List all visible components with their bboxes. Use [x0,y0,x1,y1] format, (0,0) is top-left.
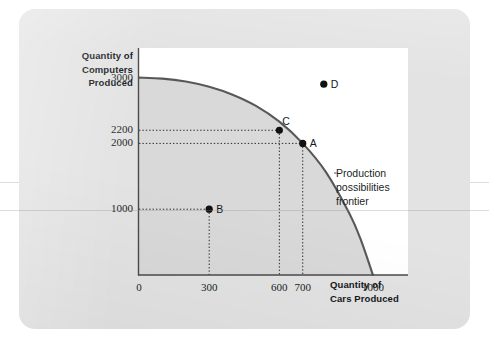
data-point-label-c: C [282,115,290,127]
x-axis-title-line-2: Cars Produced [330,292,442,306]
data-point-label-d: D [331,78,339,90]
figure-card: Quantity of Computers Produced Quantity … [19,9,470,329]
data-point-label-a: A [310,137,317,149]
y-tick-label: 1000 [89,202,133,214]
y-axis-title: Quantity of Computers Produced [67,49,133,90]
ppf-chart: Quantity of Computers Produced Quantity … [19,9,470,329]
x-tick-label: 300 [189,281,229,293]
frontier-annotation-line-2: possibilities [336,180,440,194]
data-point-b [206,206,213,213]
y-axis-title-line-1: Quantity of [67,49,133,63]
y-tick-label: 3000 [89,71,133,83]
frontier-annotation: Production possibilities frontier [336,166,440,208]
data-point-a [299,140,306,147]
y-tick-label: 2000 [89,136,133,148]
data-point-label-b: B [216,203,223,215]
data-point-c [276,127,283,134]
x-tick-label: 1000 [353,281,393,293]
data-point-d [320,81,327,88]
x-tick-label: 0 [119,281,159,293]
x-tick-label: 700 [283,281,323,293]
y-tick-label: 2200 [89,123,133,135]
frontier-annotation-line-1: Production [336,166,440,180]
frontier-annotation-line-3: frontier [336,194,440,208]
